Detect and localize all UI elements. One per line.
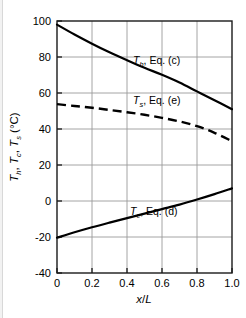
- temperature-profile-chart: 100806040200-20-40 00.20.40.60.81.0 Th, …: [0, 0, 246, 318]
- y-axis-title: Th, Tc, Ts (°C): [8, 112, 23, 181]
- x-tick-label: 0.4: [119, 277, 134, 289]
- y-axis-tick-labels: 100806040200-20-40: [33, 15, 51, 279]
- y-tick-label: 80: [39, 51, 51, 63]
- x-tick-label: 1.0: [224, 277, 239, 289]
- chart-page: 100806040200-20-40 00.20.40.60.81.0 Th, …: [0, 0, 246, 318]
- x-axis-tick-labels: 00.20.40.60.81.0: [54, 277, 240, 289]
- x-tick-label: 0.8: [189, 277, 204, 289]
- y-tick-label: 40: [39, 123, 51, 135]
- y-tick-label: 60: [39, 87, 51, 99]
- x-axis-title: x/L: [135, 293, 151, 305]
- x-tick-label: 0: [54, 277, 60, 289]
- y-tick-label: -40: [35, 267, 51, 279]
- x-tick-label: 0.6: [154, 277, 169, 289]
- y-tick-label: 0: [45, 195, 51, 207]
- y-tick-label: -20: [35, 231, 51, 243]
- y-tick-label: 100: [33, 15, 51, 27]
- x-tick-label: 0.2: [84, 277, 99, 289]
- y-tick-label: 20: [39, 159, 51, 171]
